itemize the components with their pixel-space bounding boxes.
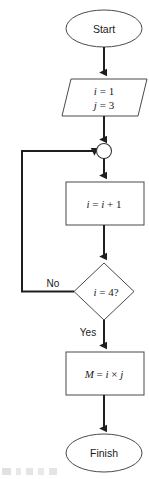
node-increment: i = i + 1: [66, 182, 144, 225]
scan-artifact: [2, 468, 64, 475]
compute-eq: =: [94, 368, 106, 380]
junction-connector-shape: [97, 144, 112, 159]
increment-rhs-rest: + 1: [104, 198, 121, 210]
node-start: Start: [66, 10, 142, 47]
increment-eq: =: [90, 198, 102, 210]
start-label: Start: [93, 23, 115, 35]
decision-rest: = 4?: [96, 286, 118, 298]
compute-expression: M = i × j: [84, 368, 124, 380]
finish-label: Finish: [90, 447, 118, 459]
node-finish: Finish: [66, 434, 142, 472]
node-decision: i = 4?: [74, 263, 134, 320]
branch-label-no: No: [47, 278, 60, 289]
node-input: i = 1 j = 3: [62, 79, 147, 116]
branch-label-yes: Yes: [80, 327, 96, 338]
input-line-1-rest: = 1: [97, 85, 114, 97]
input-line-2-rest: = 3: [97, 99, 115, 111]
input-line-1: i = 1: [94, 85, 114, 97]
decision-expression: i = 4?: [93, 286, 118, 298]
flowchart-diagram: Start i = 1 j = 3 i = i + 1 i = 4?: [0, 0, 149, 479]
node-junction: [97, 144, 112, 159]
compute-times: ×: [109, 368, 121, 380]
increment-expression: i = i + 1: [86, 198, 121, 210]
node-compute: M = i × j: [66, 352, 144, 395]
input-line-2: j = 3: [92, 99, 115, 111]
